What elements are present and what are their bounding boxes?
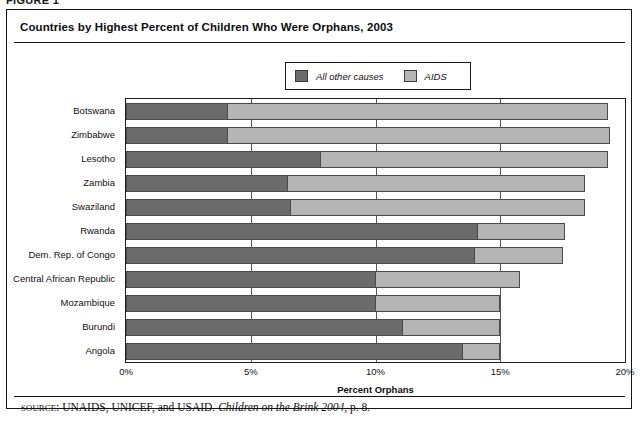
legend-label-aids: AIDS bbox=[425, 71, 447, 82]
x-axis-tick-label: 0% bbox=[119, 366, 133, 377]
bar-segment-all-other-causes bbox=[126, 223, 478, 240]
bar-segment-aids bbox=[228, 127, 610, 144]
chart-title: Countries by Highest Percent of Children… bbox=[20, 21, 393, 33]
bar-row bbox=[126, 247, 563, 264]
bar-segment-aids bbox=[288, 175, 585, 192]
y-axis-tick-label: Rwanda bbox=[80, 222, 115, 239]
bar-segment-aids bbox=[403, 319, 500, 336]
figure-number-strip: FIGURE 1 bbox=[0, 0, 640, 8]
bar-row bbox=[126, 127, 610, 144]
source-publication: Children on the Brink 2004 bbox=[218, 401, 344, 413]
source-divider bbox=[14, 396, 625, 397]
legend-label-all-other-causes: All other causes bbox=[316, 71, 384, 82]
x-axis-title: Percent Orphans bbox=[125, 384, 626, 395]
bar-segment-aids bbox=[228, 103, 607, 120]
bar-segment-aids bbox=[321, 151, 608, 168]
y-axis-tick-label: Botswana bbox=[73, 102, 115, 119]
bar-segment-aids bbox=[463, 343, 500, 360]
bar-segment-all-other-causes bbox=[126, 319, 403, 336]
source-page: , p. 8. bbox=[344, 401, 370, 413]
bar-segment-all-other-causes bbox=[126, 151, 321, 168]
y-axis-tick-label: Zimbabwe bbox=[71, 126, 115, 143]
y-axis-labels: BotswanaZimbabweLesothoZambiaSwazilandRw… bbox=[7, 98, 121, 363]
title-divider bbox=[14, 42, 625, 43]
y-axis-tick-label: Angola bbox=[85, 342, 115, 359]
y-axis-tick-label: Central African Republic bbox=[13, 270, 115, 287]
bar-row bbox=[126, 343, 500, 360]
y-axis-tick-label: Burundi bbox=[82, 318, 115, 335]
bar-segment-aids bbox=[376, 295, 501, 312]
legend-swatch-icon bbox=[295, 70, 308, 82]
bar-segment-all-other-causes bbox=[126, 271, 376, 288]
bar-segment-all-other-causes bbox=[126, 247, 475, 264]
legend-item-all-other-causes: All other causes bbox=[295, 70, 384, 82]
legend-item-aids: AIDS bbox=[404, 70, 447, 82]
y-axis-tick-label: Mozambique bbox=[61, 294, 115, 311]
bar-segment-all-other-causes bbox=[126, 103, 228, 120]
legend-swatch-icon bbox=[404, 70, 417, 82]
bar-row bbox=[126, 295, 500, 312]
y-axis-tick-label: Dem. Rep. of Congo bbox=[28, 246, 115, 263]
bar-segment-all-other-causes bbox=[126, 175, 288, 192]
source-agencies: UNAIDS, UNICEF, and USAID. bbox=[62, 401, 218, 413]
chart-legend: All other causes AIDS bbox=[285, 62, 471, 90]
y-axis-tick-label: Zambia bbox=[83, 174, 115, 191]
source-prefix: SOURCE bbox=[21, 403, 56, 413]
y-axis-tick-label: Swaziland bbox=[72, 198, 115, 215]
bar-segment-all-other-causes bbox=[126, 295, 376, 312]
bar-row bbox=[126, 271, 520, 288]
x-axis-tick-label: 10% bbox=[366, 366, 385, 377]
bar-row bbox=[126, 103, 608, 120]
bar-segment-aids bbox=[478, 223, 565, 240]
bar-row bbox=[126, 223, 565, 240]
bar-row bbox=[126, 151, 608, 168]
x-axis-tick-label: 5% bbox=[244, 366, 258, 377]
source-note: SOURCE: UNAIDS, UNICEF, and USAID. Child… bbox=[21, 401, 370, 413]
y-axis-tick-label: Lesotho bbox=[81, 150, 115, 167]
bar-row bbox=[126, 199, 585, 216]
x-axis-tick-label: 15% bbox=[491, 366, 510, 377]
figure-frame: Countries by Highest Percent of Children… bbox=[6, 9, 632, 409]
bar-segment-all-other-causes bbox=[126, 343, 463, 360]
bar-series-container bbox=[126, 99, 625, 362]
bar-row bbox=[126, 319, 500, 336]
bar-segment-aids bbox=[291, 199, 585, 216]
bar-segment-aids bbox=[475, 247, 562, 264]
bar-segment-all-other-causes bbox=[126, 127, 228, 144]
bar-segment-all-other-causes bbox=[126, 199, 291, 216]
figure-number-label: FIGURE 1 bbox=[6, 0, 59, 6]
x-axis-labels: 0%5%10%15%20% bbox=[7, 366, 640, 382]
bar-segment-aids bbox=[376, 271, 521, 288]
bar-row bbox=[126, 175, 585, 192]
x-axis-tick-label: 20% bbox=[615, 366, 634, 377]
plot-area bbox=[125, 98, 626, 363]
